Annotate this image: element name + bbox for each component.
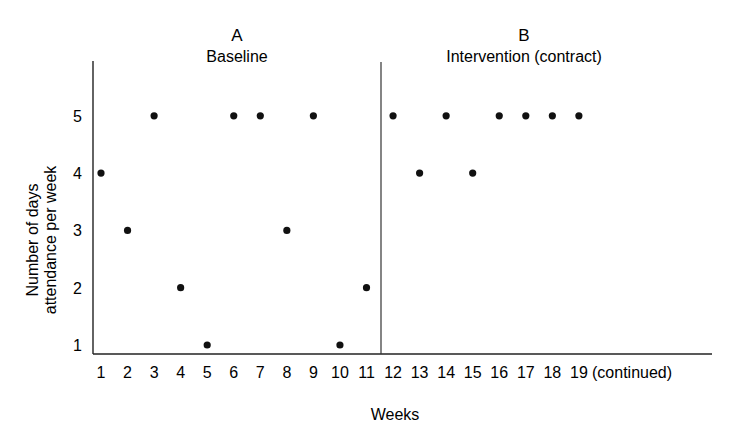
y-tick-label: 1 [73,337,82,354]
data-point-week-2 [124,227,131,234]
data-point-week-18 [549,112,556,119]
y-tick-label: 2 [73,280,82,297]
data-point-week-14 [443,112,450,119]
x-tick-label: 18 [543,364,561,381]
data-point-week-12 [389,112,396,119]
x-continued-label: (continued) [592,364,672,381]
data-point-week-5 [204,341,211,348]
x-tick-label: 11 [358,364,375,381]
y-axis-title-line2: attendance per week [42,165,59,315]
data-point-week-16 [496,112,503,119]
data-points [97,112,582,348]
attendance-chart: A Baseline B Intervention (contract) Num… [0,0,733,444]
x-tick-labels: 12345678910111213141516171819 [97,364,588,381]
y-axis-title: Number of days attendance per week [24,165,59,315]
x-tick-label: 4 [176,364,185,381]
x-tick-label: 9 [309,364,318,381]
x-tick-label: 19 [570,364,588,381]
y-tick-label: 5 [73,108,82,125]
data-point-week-9 [310,112,317,119]
phase-b-letter: B [518,26,529,45]
data-point-week-17 [522,112,529,119]
x-tick-label: 6 [229,364,238,381]
phase-a-letter: A [231,26,243,45]
data-point-week-11 [363,284,370,291]
data-point-week-15 [469,170,476,177]
phase-a-title: Baseline [206,48,267,65]
data-point-week-13 [416,170,423,177]
data-point-week-4 [177,284,184,291]
x-tick-label: 5 [203,364,212,381]
data-point-week-3 [151,112,158,119]
x-tick-label: 3 [150,364,159,381]
x-tick-label: 17 [517,364,535,381]
x-tick-label: 7 [256,364,265,381]
y-tick-label: 3 [73,222,82,239]
x-tick-label: 2 [123,364,132,381]
x-axis-title: Weeks [371,406,420,423]
x-tick-label: 13 [411,364,429,381]
x-tick-label: 1 [97,364,106,381]
x-tick-label: 10 [331,364,349,381]
x-tick-label: 14 [437,364,455,381]
data-point-week-19 [575,112,582,119]
data-point-week-1 [97,170,104,177]
phase-b-title: Intervention (contract) [446,48,602,65]
y-axis-title-line1: Number of days [24,184,41,297]
x-tick-label: 16 [490,364,508,381]
data-point-week-8 [283,227,290,234]
y-tick-labels: 12345 [73,108,82,354]
data-point-week-7 [257,112,264,119]
y-tick-label: 4 [73,165,82,182]
x-tick-label: 15 [464,364,482,381]
x-tick-label: 12 [384,364,402,381]
data-point-week-6 [230,112,237,119]
x-tick-label: 8 [282,364,291,381]
data-point-week-10 [336,341,343,348]
